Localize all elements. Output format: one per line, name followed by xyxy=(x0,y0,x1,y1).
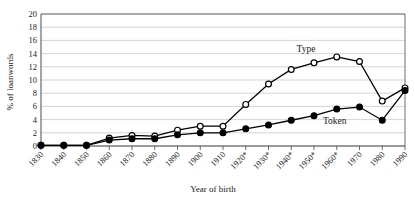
data-point-type xyxy=(357,59,363,65)
data-point-token xyxy=(61,142,67,148)
y-tick-label: 6 xyxy=(33,101,37,111)
data-point-token xyxy=(243,126,249,132)
y-tick-label: 20 xyxy=(29,9,38,19)
chart-container: 02468101214161820 1830184018501860187018… xyxy=(0,0,415,198)
data-point-token xyxy=(334,106,340,112)
data-point-token xyxy=(129,136,135,142)
data-point-type xyxy=(220,123,226,129)
data-point-token xyxy=(175,132,181,138)
y-axis-title: % of loanwords xyxy=(5,53,15,110)
data-point-token xyxy=(38,142,44,148)
y-tick-label: 0 xyxy=(33,141,37,151)
data-point-type xyxy=(266,81,272,87)
data-point-type xyxy=(197,123,203,129)
y-tick-label: 8 xyxy=(33,88,37,98)
y-tick-label: 14 xyxy=(29,49,38,59)
loanwords-line-chart: 02468101214161820 1830184018501860187018… xyxy=(0,0,415,198)
data-point-type xyxy=(334,54,340,60)
data-point-type xyxy=(243,102,249,108)
data-point-token xyxy=(357,104,363,110)
data-point-token xyxy=(402,88,408,94)
y-tick-label: 16 xyxy=(29,35,38,45)
series-annotation-type: Type xyxy=(297,44,316,54)
y-tick-label: 2 xyxy=(33,128,37,138)
data-point-token xyxy=(84,142,90,148)
data-point-token xyxy=(220,130,226,136)
x-axis-title: Year of birth xyxy=(190,184,236,194)
data-point-token xyxy=(379,117,385,123)
series-annotation-token: Token xyxy=(323,116,347,126)
data-point-token xyxy=(197,130,203,136)
y-tick-label: 18 xyxy=(29,22,38,32)
data-point-type xyxy=(311,60,317,66)
data-point-type xyxy=(379,98,385,104)
data-point-token xyxy=(106,137,112,143)
y-tick-label: 10 xyxy=(29,75,38,85)
plot-background xyxy=(0,0,415,198)
data-point-token xyxy=(152,136,158,142)
data-point-type xyxy=(288,67,294,73)
data-point-token xyxy=(288,117,294,123)
data-point-token xyxy=(311,113,317,119)
y-tick-label: 12 xyxy=(29,62,38,72)
data-point-token xyxy=(266,122,272,128)
